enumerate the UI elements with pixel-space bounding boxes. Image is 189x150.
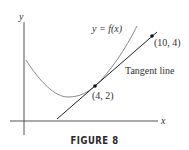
tangent-line-figure: y x y = f(x) (10, 4) Tangent line (4, 2)	[0, 0, 189, 150]
x-axis-label: x	[160, 115, 166, 126]
figure-caption: FIGURE 8	[14, 135, 175, 146]
y-axis-label: y	[18, 11, 24, 22]
point-second-label: (10, 4)	[154, 37, 181, 49]
curve-label: y = f(x)	[91, 23, 123, 35]
tangent-label: Tangent line	[125, 65, 175, 76]
point-tangency	[93, 84, 97, 88]
point-tangency-label: (4, 2)	[92, 90, 114, 102]
function-curve	[26, 26, 137, 97]
